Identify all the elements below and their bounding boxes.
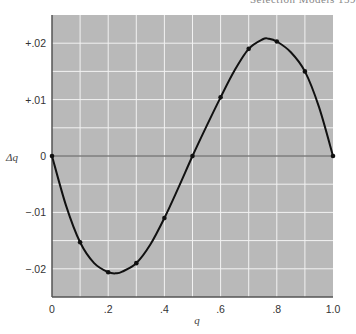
data-point	[303, 69, 308, 74]
y-tick-label: −.01	[25, 206, 46, 218]
y-tick-labels: +.02+.010−.01−.02	[25, 37, 46, 275]
x-tick-label: .6	[216, 303, 225, 315]
data-point	[134, 261, 139, 266]
y-tick-label: +.01	[25, 94, 46, 106]
data-point	[78, 240, 83, 245]
x-tick-label: .8	[272, 303, 281, 315]
x-tick-label: .2	[104, 303, 113, 315]
x-tick-label: 1.0	[326, 303, 341, 315]
y-tick-label: −.02	[25, 263, 46, 275]
data-point	[190, 154, 195, 159]
data-point	[218, 95, 223, 100]
y-tick-label: +.02	[25, 37, 46, 49]
x-axis-label: q	[194, 314, 200, 326]
data-point	[246, 47, 251, 52]
data-point	[331, 154, 336, 159]
y-tick-label: 0	[40, 150, 46, 162]
data-point	[162, 216, 167, 221]
data-point	[106, 270, 111, 275]
x-tick-label: .4	[160, 303, 169, 315]
data-point	[50, 154, 55, 159]
x-tick-label: 0	[49, 303, 55, 315]
data-point	[275, 39, 280, 44]
y-axis-label: Δq	[5, 151, 18, 163]
